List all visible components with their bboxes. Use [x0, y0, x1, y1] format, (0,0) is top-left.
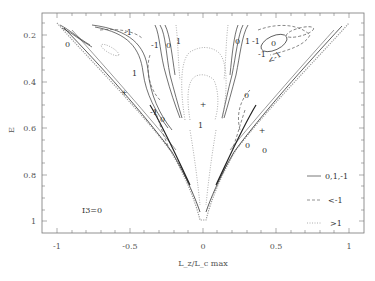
contour-label: 0 — [245, 141, 250, 150]
contour-label: -1 — [258, 50, 266, 59]
contour-label: 0 — [235, 37, 240, 46]
contour-label: 0 — [244, 91, 249, 100]
y-axis-label: E — [7, 127, 16, 133]
plus-marker: + — [259, 126, 266, 135]
y-tick-label: 0.4 — [23, 78, 36, 87]
x-tick-label: 1 — [346, 242, 351, 251]
legend-label: 0,1,-1 — [325, 172, 348, 181]
contour-label: 1 — [132, 69, 137, 78]
legend-label: >1 — [330, 219, 342, 228]
y-tick-label: 0.2 — [23, 31, 36, 40]
i3-annotation: I3=0 — [82, 206, 102, 215]
legend: 0,1,-1 <-1 >1 — [307, 172, 348, 228]
contour-label: 1 — [198, 121, 203, 130]
x-tick-label: -1 — [53, 242, 61, 251]
contour-label: 0 — [166, 41, 171, 50]
legend-label: <-1 — [328, 196, 343, 205]
plus-marker: + — [200, 100, 207, 109]
plus-marker: + — [121, 88, 128, 97]
contour-label: 1 — [245, 37, 250, 46]
contour-plot: -1 -0.5 0 0.5 1 0.2 0.4 0.6 0.8 1 E L_z/… — [0, 0, 375, 281]
contours-dashed — [100, 25, 315, 150]
contour-label: 0 — [160, 115, 165, 124]
contour-label: -1 — [252, 37, 260, 46]
contour-label: 1 — [176, 37, 181, 46]
contour-label: -1 — [151, 41, 159, 50]
y-tick-label: 0.6 — [23, 124, 36, 133]
contour-label: 0 — [271, 39, 276, 48]
contour-label: 0 — [262, 146, 267, 155]
contour-label: 0 — [65, 40, 70, 49]
contour-label: -1 — [150, 108, 158, 117]
contour-label: -1 — [124, 28, 132, 37]
x-tick-label: -0.5 — [122, 242, 137, 251]
x-tick-label: 0.5 — [270, 242, 283, 251]
x-tick-label: 0 — [200, 242, 205, 251]
y-tick-label: 1 — [31, 217, 36, 226]
y-tick-label: 0.8 — [23, 171, 36, 180]
x-axis-label: L_z/L_c max — [178, 259, 228, 268]
